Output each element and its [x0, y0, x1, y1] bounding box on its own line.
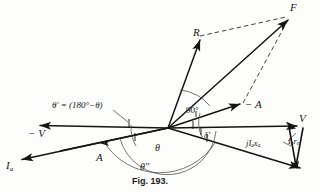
label-R: R: [193, 27, 200, 38]
figure-container: F R − A V − V A Ia 90° θ θ′′ δ′ θ′ = (18…: [0, 0, 319, 192]
vector-V: [168, 126, 297, 128]
label-reactance-sub-a2: a: [258, 142, 261, 148]
label-resistance-drop: Iare: [288, 137, 299, 147]
leader-theta-prime: [113, 110, 128, 122]
vector-emf: [168, 128, 300, 168]
vector-A-group: [60, 128, 168, 151]
drop-IaRe-line: [296, 128, 303, 166]
figure-caption: Fig. 193.: [132, 176, 168, 186]
label-Ia: Ia: [6, 160, 13, 173]
vector-minus-V: [40, 126, 168, 129]
angle-arc-group: [104, 90, 216, 175]
vector-A-line: [60, 128, 168, 151]
label-theta: θ: [155, 143, 160, 153]
label-A: A: [96, 152, 103, 163]
dashed-line-minusA-to-F: [243, 20, 288, 103]
label-reactance-drop: jIaxa: [246, 139, 260, 149]
vector-minus-A: [168, 104, 240, 128]
label-delta-prime: δ′: [204, 131, 210, 140]
label-theta-double-prime: θ′′: [140, 162, 149, 172]
phasor-diagram-canvas: [0, 0, 319, 192]
label-F: F: [290, 2, 297, 13]
label-angle-90: 90°: [186, 106, 199, 115]
label-V: V: [299, 113, 306, 124]
label-minus-A: − A: [245, 99, 262, 110]
label-Ia-subscript: a: [10, 165, 13, 172]
label-theta-prime-relation: θ′ = (180°−θ): [52, 101, 103, 110]
label-minus-V: − V: [28, 128, 45, 139]
label-resistance-sub-e: e: [297, 140, 299, 146]
